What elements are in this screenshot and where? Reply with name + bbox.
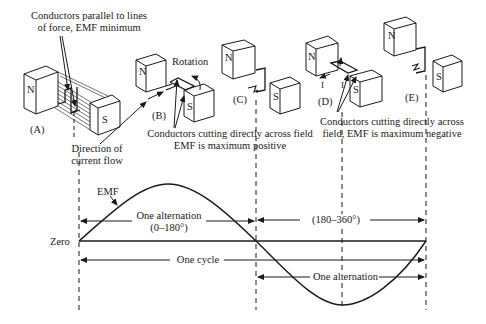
stage-a-label: (A) [30, 124, 45, 136]
stage-c-south-label: S [273, 91, 279, 103]
stage-e-generator [384, 17, 462, 92]
stage-a-south-label: S [102, 114, 108, 126]
max-positive-note: Conductors cutting directly across field… [130, 128, 330, 152]
current-symbol-left: I [321, 79, 324, 91]
emf-label: EMF [97, 186, 119, 198]
parallel-conductors-note: Conductors parallel to lines of force, E… [14, 10, 164, 34]
stage-e-north-label: N [388, 30, 396, 42]
stage-d-label: (D) [318, 96, 333, 108]
stage-b-south-label: S [187, 101, 193, 113]
stage-c-north-label: N [225, 52, 233, 64]
stage-e-south-label: S [436, 71, 442, 83]
stage-a-north-label: N [27, 84, 35, 96]
max-negative-note: Conductors cutting directly across field… [312, 116, 472, 140]
second-half-range-label: (180–360°) [302, 214, 370, 226]
stage-b-label: (B) [152, 110, 166, 122]
second-alternation-label: One alternation [311, 271, 379, 283]
rotation-label: Rotation [172, 56, 208, 68]
first-alternation-label: One alternation (0–180°) [132, 210, 206, 234]
zero-label: Zero [50, 236, 70, 248]
emf-sine-curve [79, 184, 426, 305]
stage-c-label: (C) [233, 94, 247, 106]
stage-d-north-label: N [308, 51, 316, 63]
current-symbol-right: I [341, 79, 344, 91]
one-cycle-label: One cycle [172, 254, 224, 266]
stage-e-label: (E) [405, 92, 418, 104]
direction-of-current-note: Direction of current flow [62, 143, 132, 167]
stage-b-north-label: N [139, 66, 147, 78]
stage-d-south-label: S [353, 84, 359, 96]
